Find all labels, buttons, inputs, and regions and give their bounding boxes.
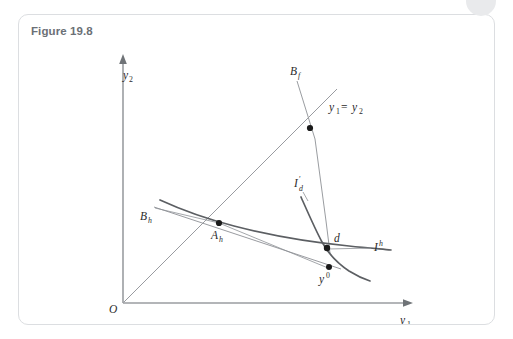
figure-card: Figure 19.8 — [18, 14, 495, 325]
label-ray-base1: y — [328, 101, 335, 114]
label-ray-45-degree: y 1 = y 2 — [328, 101, 363, 116]
data-points-group — [216, 125, 332, 270]
y-axis-label-base: y — [122, 69, 129, 82]
axes-group — [119, 54, 413, 307]
label-indiff-d-prime: ′ — [299, 175, 301, 184]
label-endowment-sup: 0 — [326, 271, 330, 280]
point-endowment-y0 — [326, 264, 332, 270]
label-budget-foreign-sub: f — [298, 71, 302, 80]
point-d — [324, 245, 330, 251]
label-endowment: y 0 — [318, 271, 330, 286]
label-ray-sub2: 2 — [359, 107, 363, 116]
label-endowment-base: y — [318, 273, 325, 286]
label-ray-base2: y — [351, 101, 358, 114]
label-point-autarky-base: A — [210, 229, 219, 241]
point-bf-ray-intersection — [307, 125, 313, 131]
indifference-home-right-tail — [328, 248, 371, 249]
figure-plot: y 2 y 1 O B f y 1 = y 2 I ′ d — [19, 15, 495, 325]
x-axis-label-base: y — [399, 314, 406, 325]
budget-line-foreign — [297, 81, 330, 253]
x-axis-label-sub: 1 — [407, 320, 411, 325]
label-point-autarky: A h — [210, 229, 223, 244]
label-indifference-home: I h — [373, 239, 383, 253]
label-budget-home-sub: h — [148, 216, 152, 225]
y-axis-arrowhead — [119, 54, 127, 64]
label-ray-operator: = — [341, 101, 348, 113]
label-point-d: d — [334, 232, 340, 244]
indifference-curve-home — [160, 200, 391, 250]
label-budget-foreign: B f — [290, 65, 302, 80]
budget-home-left-tail — [155, 208, 219, 223]
y-axis-label-sub: 2 — [129, 75, 133, 84]
label-indiff-d-leader — [303, 192, 308, 201]
label-budget-foreign-base: B — [290, 65, 297, 77]
origin-label: O — [109, 303, 118, 315]
endowment-connector-line — [219, 223, 328, 268]
point-autarky-ah — [216, 220, 222, 226]
label-budget-home-base: B — [140, 210, 147, 222]
label-indiff-d-sub: d — [299, 184, 303, 193]
label-point-autarky-sub: h — [219, 235, 223, 244]
label-budget-home: B h — [140, 210, 152, 225]
budget-line-home — [154, 207, 341, 269]
x-axis-label: y 1 — [399, 314, 411, 325]
label-indiff-home-sup: h — [379, 239, 383, 248]
label-ray-sub1: 1 — [336, 107, 340, 116]
x-axis-arrowhead — [403, 299, 413, 307]
